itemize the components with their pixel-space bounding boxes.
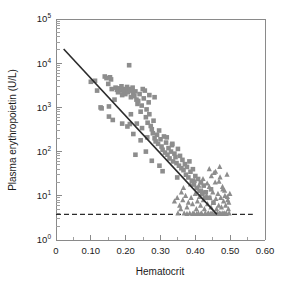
data-point-square	[164, 140, 169, 145]
data-point-square	[99, 106, 104, 111]
regression-fit-line	[64, 49, 217, 214]
data-point-square	[157, 163, 162, 168]
data-point-triangle	[183, 193, 188, 198]
data-point-triangle	[200, 176, 205, 181]
data-point-square	[143, 88, 148, 93]
data-point-triangle	[224, 172, 229, 177]
data-point-square	[185, 165, 190, 170]
data-point-square	[191, 167, 196, 172]
data-point-triangle	[213, 196, 218, 201]
data-point-triangle	[213, 179, 218, 184]
data-point-triangle	[217, 164, 222, 169]
data-point-square	[136, 99, 141, 104]
data-point-triangle	[181, 185, 186, 190]
y-axis-ticks	[56, 19, 62, 240]
x-tick-label: 0.20	[116, 245, 135, 256]
data-point-square	[164, 135, 169, 140]
data-point-square	[149, 158, 154, 163]
data-point-square	[110, 118, 115, 123]
y-tick-label: 102	[37, 145, 52, 157]
data-point-triangle	[194, 206, 199, 211]
data-point-square	[109, 77, 114, 82]
data-point-triangle	[189, 195, 194, 200]
data-point-square	[147, 93, 152, 98]
data-point-square	[157, 128, 162, 133]
series-triangle	[172, 164, 233, 216]
y-tick-label: 103	[37, 101, 52, 113]
chart-figure: 100101102103104105 00.100.200.300.400.50…	[0, 0, 287, 295]
data-point-triangle	[205, 180, 210, 185]
data-point-square	[187, 159, 192, 164]
data-point-triangle	[207, 166, 212, 171]
data-point-square	[120, 121, 125, 126]
x-axis-ticks	[56, 235, 265, 240]
data-point-square	[138, 109, 143, 114]
x-axis-tick-labels: 00.100.200.300.400.500.60	[53, 245, 274, 256]
data-point-triangle	[175, 195, 180, 200]
data-point-square	[178, 154, 183, 159]
data-point-square	[180, 158, 185, 163]
data-point-square	[140, 126, 145, 131]
y-tick-label: 105	[37, 12, 52, 24]
data-point-square	[151, 118, 156, 123]
data-point-square	[133, 152, 138, 157]
data-point-square	[129, 112, 134, 117]
x-tick-label: 0.30	[151, 245, 170, 256]
data-point-triangle	[184, 204, 189, 209]
data-points-layer	[89, 63, 233, 216]
x-tick-label: 0.60	[256, 245, 275, 256]
data-point-square	[155, 132, 160, 137]
data-point-square	[127, 63, 132, 68]
data-point-square	[170, 142, 175, 147]
data-point-square	[201, 183, 206, 188]
data-point-square	[107, 104, 112, 109]
x-tick-label: 0	[53, 245, 58, 256]
data-point-square	[144, 149, 149, 154]
x-axis-title: Hematocrit	[136, 266, 185, 277]
data-point-square	[139, 103, 144, 108]
data-point-square	[146, 100, 151, 105]
x-tick-label: 0.50	[221, 245, 240, 256]
data-point-square	[141, 96, 146, 101]
data-point-square	[176, 147, 181, 152]
x-tick-label: 0.10	[82, 245, 101, 256]
y-tick-label: 104	[37, 57, 52, 69]
data-point-square	[147, 112, 152, 117]
data-point-triangle	[220, 184, 225, 189]
y-axis-tick-labels: 100101102103104105	[37, 12, 52, 245]
data-point-triangle	[215, 191, 220, 196]
data-point-triangle	[195, 198, 200, 203]
data-point-square	[137, 92, 142, 97]
data-point-triangle	[177, 203, 182, 208]
data-point-square	[149, 127, 154, 132]
data-point-triangle	[190, 201, 195, 206]
data-point-triangle	[217, 174, 222, 179]
y-axis-title: Plasma erythropoietin (U/L)	[7, 69, 18, 191]
data-point-square	[175, 175, 180, 180]
erythropoietin-hematocrit-scatter-plot: 100101102103104105 00.100.200.300.400.50…	[0, 0, 287, 295]
data-point-square	[151, 131, 156, 136]
data-point-square	[138, 138, 143, 143]
data-point-square	[173, 155, 178, 160]
data-point-square	[133, 89, 138, 94]
x-tick-label: 0.40	[186, 245, 205, 256]
data-point-square	[160, 169, 165, 174]
y-tick-label: 101	[37, 189, 52, 201]
regression-line	[64, 49, 217, 214]
data-point-square	[131, 132, 136, 137]
data-point-square	[152, 95, 157, 100]
y-tick-label: 100	[37, 233, 52, 245]
data-point-square	[106, 82, 111, 87]
data-point-square	[95, 88, 100, 93]
data-point-triangle	[186, 200, 191, 205]
series-square	[89, 63, 216, 205]
data-point-square	[144, 107, 149, 112]
